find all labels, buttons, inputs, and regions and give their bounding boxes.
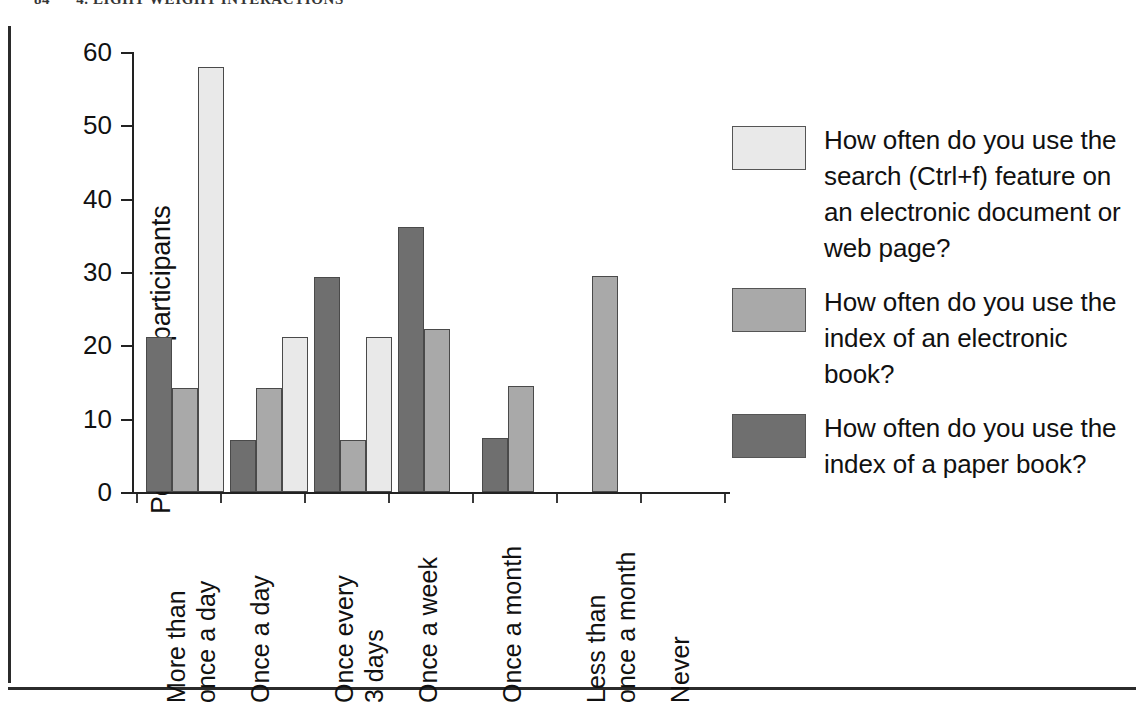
bar-index-electronic-book[interactable]: [508, 386, 534, 492]
legend-item[interactable]: How often do you use the search (Ctrl+f)…: [732, 122, 1142, 266]
legend-item[interactable]: How often do you use the index of an ele…: [732, 284, 1142, 392]
x-axis-category-labels: More thanonce a dayOnce a dayOnce every3…: [132, 507, 752, 706]
page-left-rule: [8, 26, 11, 683]
bar-index-electronic-book[interactable]: [424, 329, 450, 492]
x-axis-tick: [472, 494, 474, 503]
x-axis-tick: [640, 494, 642, 503]
bar-index-paper-book[interactable]: [482, 438, 508, 492]
x-axis-label-6: Less thanonce a month: [562, 507, 622, 706]
chart-legend: How often do you use the search (Ctrl+f)…: [732, 122, 1142, 500]
legend-item[interactable]: How often do you use the index of a pape…: [732, 410, 1142, 482]
bar-index-electronic-book[interactable]: [592, 276, 618, 492]
bar-series-layer: [132, 52, 732, 494]
bar-group: [566, 52, 644, 492]
y-axis-tick-label: 40: [83, 186, 112, 212]
bar-index-paper-book[interactable]: [146, 337, 172, 492]
x-axis-label-1: More thanonce a day: [142, 507, 202, 706]
x-axis-label-line: 3 days: [362, 507, 387, 703]
bar-group: [230, 52, 308, 492]
x-axis-tick: [724, 494, 726, 503]
x-axis-tick: [220, 494, 222, 503]
legend-swatch-icon: [732, 414, 806, 458]
x-axis-label-line: Never: [668, 507, 693, 703]
x-axis-tick: [556, 494, 558, 503]
bar-group: [146, 52, 224, 492]
running-header: 844. LIGHT WEIGHT INTERACTIONS: [34, 0, 344, 7]
x-axis-label-line: once a month: [614, 507, 639, 703]
legend-label: How often do you use the search (Ctrl+f)…: [824, 122, 1130, 266]
x-axis-label-7: Never: [646, 507, 706, 706]
y-axis-tick-label: 50: [83, 112, 112, 138]
x-axis-label-4: Once a week: [394, 507, 454, 706]
y-axis-tick-label: 60: [83, 39, 112, 65]
page-folio-number: 84: [34, 0, 50, 7]
bar-index-paper-book[interactable]: [398, 227, 424, 492]
bar-search-ctrl-f[interactable]: [198, 67, 224, 492]
bar-group: [650, 52, 728, 492]
x-axis-label-3: Once every3 days: [310, 507, 370, 706]
bar-group: [398, 52, 476, 492]
x-axis-tick: [388, 494, 390, 503]
x-axis-label-5: Once a month: [478, 507, 538, 706]
x-axis-tick: [136, 494, 138, 503]
y-axis-tick-label: 30: [83, 259, 112, 285]
figure-frame: 0102030405060 Percentage of participants…: [8, 26, 1136, 690]
legend-label: How often do you use the index of an ele…: [824, 284, 1130, 392]
x-axis-tick: [304, 494, 306, 503]
x-axis-label-line: Once a month: [500, 507, 525, 703]
running-header-title: 4. LIGHT WEIGHT INTERACTIONS: [76, 0, 344, 7]
x-axis-label-2: Once a day: [226, 507, 286, 706]
y-axis-tick-label: 20: [83, 332, 112, 358]
bar-index-electronic-book[interactable]: [340, 440, 366, 492]
x-axis-label-line: Once a day: [248, 507, 273, 703]
x-axis-label-line: More than: [164, 507, 189, 703]
legend-swatch-icon: [732, 126, 806, 170]
legend-label: How often do you use the index of a pape…: [824, 410, 1130, 482]
y-axis-tick-label: 0: [98, 479, 112, 505]
bar-index-electronic-book[interactable]: [256, 388, 282, 492]
bar-search-ctrl-f[interactable]: [282, 337, 308, 492]
bar-search-ctrl-f[interactable]: [366, 337, 392, 492]
bar-chart-plot-area: 0102030405060 Percentage of participants…: [132, 52, 732, 492]
bar-group: [482, 52, 560, 492]
bar-index-paper-book[interactable]: [230, 440, 256, 492]
x-axis-label-line: Once every: [332, 507, 357, 703]
bar-index-paper-book[interactable]: [314, 277, 340, 492]
legend-swatch-icon: [732, 288, 806, 332]
x-axis-label-line: once a day: [194, 507, 219, 703]
x-axis-label-line: Once a week: [416, 507, 441, 703]
bar-index-electronic-book[interactable]: [172, 388, 198, 492]
x-axis-label-line: Less than: [584, 507, 609, 703]
y-axis-tick-label: 10: [83, 406, 112, 432]
bar-group: [314, 52, 392, 492]
